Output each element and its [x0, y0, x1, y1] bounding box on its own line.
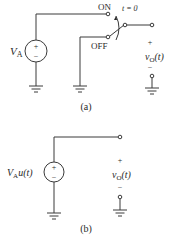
- caption-a: (a): [80, 101, 91, 113]
- voltage-source-b: + −: [44, 162, 64, 182]
- caption-b: (b): [80, 223, 92, 235]
- off-terminal: [106, 35, 110, 39]
- circuit-a: + − VA ON t = 0 OFF + vO(t) −: [10, 2, 165, 113]
- switch-off-label: OFF: [91, 41, 108, 51]
- wire-top-a: [36, 14, 106, 40]
- voltage-source-a: + −: [25, 40, 47, 62]
- output-terminal-bottom-a: [150, 74, 154, 78]
- source-plus-b: +: [52, 163, 57, 172]
- switch-blade: [110, 25, 124, 36]
- on-terminal: [106, 12, 110, 16]
- circuit-b: + − VAu(t) + vO(t) − (b): [7, 135, 132, 235]
- output-plus-a: +: [148, 38, 153, 47]
- ground-icon: [113, 210, 127, 216]
- ground-icon: [29, 86, 43, 92]
- output-label-b: vO(t): [112, 169, 132, 182]
- ground-icon: [145, 88, 159, 94]
- source-plus-a: +: [34, 42, 39, 51]
- output-terminal-top-b: [118, 135, 122, 139]
- output-minus-a: −: [148, 63, 153, 72]
- switch-on-label: ON: [98, 2, 111, 12]
- output-terminal-bottom-b: [118, 195, 122, 199]
- source-label-a: VA: [10, 45, 23, 59]
- ground-icon: [47, 213, 61, 219]
- circuit-figure: + − VA ON t = 0 OFF + vO(t) −: [0, 0, 173, 237]
- wire-top-b: [54, 137, 118, 162]
- ground-icon: [73, 86, 87, 92]
- source-minus-a: −: [34, 52, 39, 61]
- switch-time-label: t = 0: [122, 4, 138, 13]
- output-plus-b: +: [118, 156, 123, 165]
- output-terminal-top-a: [150, 23, 154, 27]
- source-minus-b: −: [52, 173, 57, 182]
- output-minus-b: −: [118, 183, 123, 192]
- source-label-b: VAu(t): [7, 167, 33, 180]
